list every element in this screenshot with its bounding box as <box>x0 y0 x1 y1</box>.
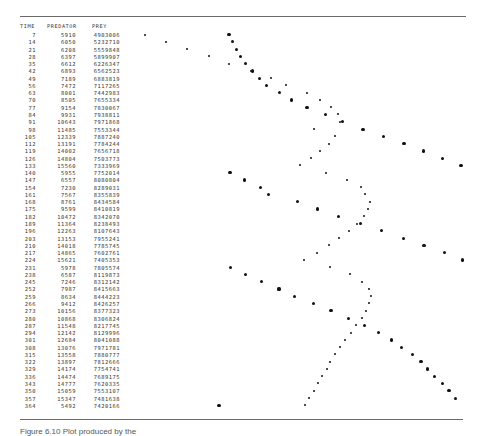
cell-time: 84 <box>29 112 37 118</box>
cell-time: 238 <box>25 272 36 278</box>
predator-point <box>359 222 362 225</box>
predator-point <box>244 62 247 65</box>
cell-prey: 8217745 <box>94 323 120 329</box>
cell-time: 252 <box>25 286 36 292</box>
cell-prey: 5559848 <box>94 47 120 53</box>
cell-predator: 5978 <box>61 265 76 271</box>
cell-predator: 8001 <box>61 90 76 96</box>
predator-point <box>402 142 405 145</box>
cell-predator: 13897 <box>57 359 76 365</box>
cell-predator: 9931 <box>61 112 76 118</box>
predator-point <box>363 324 366 327</box>
cell-time: 112 <box>25 141 36 147</box>
cell-predator: 6893 <box>61 68 76 74</box>
prey-point <box>165 41 167 43</box>
cell-time: 42 <box>29 68 37 74</box>
cell-predator: 5492 <box>61 403 76 409</box>
prey-point <box>346 179 348 181</box>
cell-prey: 8080804 <box>94 177 120 183</box>
cell-time: 21 <box>29 47 37 53</box>
cell-predator: 6587 <box>61 272 76 278</box>
cell-predator: 10156 <box>57 308 76 314</box>
cell-time: 168 <box>25 199 36 205</box>
prey-point <box>367 208 369 210</box>
cell-prey: 8119873 <box>94 272 120 278</box>
cell-time: 294 <box>25 330 36 336</box>
cell-predator: 6050 <box>61 39 76 45</box>
header-predator: PREDATOR <box>47 23 77 29</box>
cell-predator: 7230 <box>61 185 76 191</box>
prey-point <box>316 252 318 254</box>
prey-point <box>306 92 308 94</box>
cell-time: 217 <box>25 250 36 256</box>
cell-time: 315 <box>25 352 36 358</box>
cell-predator: 13076 <box>57 345 76 351</box>
cell-predator: 10643 <box>57 119 76 125</box>
cell-time: 203 <box>25 236 36 242</box>
cell-prey: 6562523 <box>94 68 120 74</box>
header-time: TIME <box>20 23 35 29</box>
cell-predator: 10868 <box>57 316 76 322</box>
cell-prey: 5232710 <box>94 39 120 45</box>
cell-prey: 7553107 <box>94 388 120 394</box>
cell-prey: 8434584 <box>94 199 120 205</box>
predator-point <box>443 251 446 254</box>
cell-prey: 8306824 <box>94 316 120 322</box>
cell-predator: 14018 <box>57 243 76 249</box>
predator-point <box>441 157 444 160</box>
cell-prey: 8238493 <box>94 221 120 227</box>
cell-predator: 11548 <box>57 323 76 329</box>
predator-point <box>259 186 262 189</box>
cell-predator: 11485 <box>57 127 76 133</box>
prey-point <box>308 397 310 399</box>
prey-point <box>364 193 366 195</box>
cell-prey: 7887240 <box>94 134 120 140</box>
prey-point <box>328 244 330 246</box>
cell-predator: 5910 <box>61 32 76 38</box>
cell-time: 140 <box>25 170 36 176</box>
prey-point <box>304 404 306 406</box>
cell-predator: 7246 <box>61 279 76 285</box>
predator-point <box>312 302 315 305</box>
cell-prey: 7938811 <box>94 112 120 118</box>
cell-prey: 7805574 <box>94 265 120 271</box>
cell-predator: 15621 <box>57 257 76 263</box>
cell-time: 7 <box>32 32 36 38</box>
bottom-rule <box>20 419 463 420</box>
cell-time: 105 <box>25 134 36 140</box>
predator-point <box>293 295 296 298</box>
prey-point <box>328 143 330 145</box>
prey-point <box>313 390 315 392</box>
predator-point <box>267 193 270 196</box>
cell-prey: 7655334 <box>94 97 120 103</box>
prey-point <box>338 237 340 239</box>
cell-time: 245 <box>25 279 36 285</box>
cell-time: 28 <box>29 54 37 60</box>
cell-predator: 14804 <box>57 156 76 162</box>
prey-point <box>334 135 336 137</box>
cell-predator: 15059 <box>57 388 76 394</box>
cell-prey: 7971868 <box>94 119 120 125</box>
cell-time: 154 <box>25 185 36 191</box>
cell-prey: 7602761 <box>94 250 120 256</box>
predator-point <box>239 55 242 58</box>
predator-point <box>402 237 405 240</box>
prey-point <box>270 77 272 79</box>
cell-prey: 8041088 <box>94 337 120 343</box>
predator-point <box>422 244 425 247</box>
prey-point <box>334 353 336 355</box>
cell-time: 259 <box>25 294 36 300</box>
prey-point <box>319 99 321 101</box>
predator-point <box>290 98 293 101</box>
predator-point <box>235 48 238 51</box>
predator-point <box>305 106 308 109</box>
prey-point <box>303 259 305 261</box>
prey-point <box>329 266 331 268</box>
cell-prey: 8107643 <box>94 228 120 234</box>
predator-point <box>422 149 425 152</box>
cell-prey: 7333969 <box>94 163 120 169</box>
predator-point <box>400 346 403 349</box>
prey-point <box>355 324 357 326</box>
predator-point <box>459 164 462 167</box>
prey-point <box>319 150 321 152</box>
